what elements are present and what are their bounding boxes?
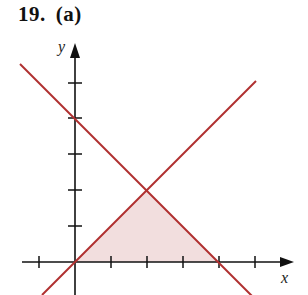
y-axis-label: y xyxy=(56,38,66,56)
y-axis-arrow-icon xyxy=(70,43,80,58)
shaded-region xyxy=(75,190,219,262)
graph: y x xyxy=(0,0,308,295)
line-y-equals-x xyxy=(42,81,256,295)
x-axis-arrow-icon xyxy=(280,257,294,267)
x-axis-label: x xyxy=(280,269,288,286)
